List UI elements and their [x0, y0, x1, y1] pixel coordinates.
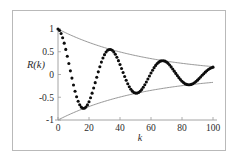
y-tick-label-group: -1-0.500.51 [39, 24, 54, 125]
x-tick-label: 40 [115, 123, 125, 133]
data-point [72, 83, 75, 86]
data-point [143, 83, 146, 86]
lower-envelope-curve [58, 82, 213, 120]
data-point [101, 56, 104, 59]
y-tick-label: -1 [46, 115, 54, 125]
data-point [125, 79, 128, 82]
data-point [63, 42, 66, 45]
x-tick-label: 80 [177, 123, 187, 133]
data-point [115, 56, 118, 59]
data-point [67, 62, 70, 65]
data-point [122, 71, 125, 74]
data-point [95, 76, 98, 79]
y-tick-label: -0.5 [39, 93, 54, 103]
data-point [92, 87, 95, 90]
y-tick-label: 0.5 [42, 47, 54, 57]
data-point [89, 96, 92, 99]
data-point [97, 70, 100, 73]
data-point [70, 77, 73, 80]
data-point [58, 29, 61, 32]
data-point [100, 61, 103, 64]
data-point [145, 80, 148, 83]
data-point [60, 32, 63, 35]
data-point [146, 77, 149, 80]
x-tick-label: 0 [56, 123, 61, 133]
data-point [91, 92, 94, 95]
y-axis-title: R(k) [26, 59, 46, 71]
x-tick-label: 60 [146, 123, 156, 133]
data-point [77, 100, 80, 103]
data-point [126, 82, 129, 85]
figure-root: 020406080100 -1-0.500.51 k R(k) [0, 0, 237, 162]
y-tick-label: 0 [49, 70, 54, 80]
upper-envelope-curve [58, 29, 213, 67]
data-point [120, 67, 123, 70]
data-point [75, 95, 78, 98]
data-point [117, 59, 120, 62]
data-point [98, 65, 101, 68]
data-point [69, 69, 72, 72]
data-point [87, 100, 90, 103]
data-point [64, 48, 67, 51]
data-point [66, 55, 69, 58]
data-point [114, 53, 117, 56]
x-axis-title: k [138, 132, 143, 143]
data-point [118, 63, 121, 66]
data-point [74, 90, 77, 93]
data-point [149, 71, 152, 74]
damped-oscillation-chart: 020406080100 -1-0.500.51 k R(k) [0, 0, 237, 162]
data-point [86, 103, 89, 106]
x-tick-label: 20 [84, 123, 94, 133]
data-point [148, 74, 151, 77]
y-tick-label: 1 [49, 24, 54, 34]
x-tick-label: 100 [206, 123, 221, 133]
data-point-group [56, 27, 214, 109]
data-point [103, 53, 106, 56]
data-point [61, 36, 64, 39]
data-point [123, 75, 126, 78]
data-point [94, 81, 97, 84]
data-point [211, 66, 214, 69]
